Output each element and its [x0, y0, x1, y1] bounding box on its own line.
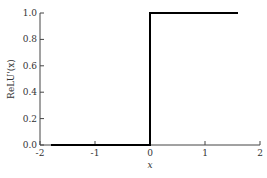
x-tick-label: -2: [36, 148, 45, 158]
y-tick-label: 1.0: [23, 8, 38, 18]
relu-derivative-line: [51, 13, 238, 145]
y-tick-label: 0.6: [23, 61, 38, 71]
y-ticks: 0.0 0.2 0.4 0.6 0.8 1.0: [23, 8, 44, 150]
x-tick-label: -1: [91, 148, 100, 158]
y-tick-label: 0.2: [23, 114, 37, 124]
relu-derivative-chart: 0.0 0.2 0.4 0.6 0.8 1.0 -2 -1 0 1 2 x Re…: [0, 0, 267, 178]
y-tick-label: 0.4: [23, 87, 38, 97]
x-tick-label: 2: [257, 148, 263, 158]
y-tick-label: 0.8: [23, 34, 38, 44]
x-tick-label: 0: [147, 148, 153, 158]
y-axis-label: ReLU'(x): [6, 59, 16, 99]
x-tick-label: 1: [202, 148, 208, 158]
x-axis-label: x: [147, 160, 152, 170]
